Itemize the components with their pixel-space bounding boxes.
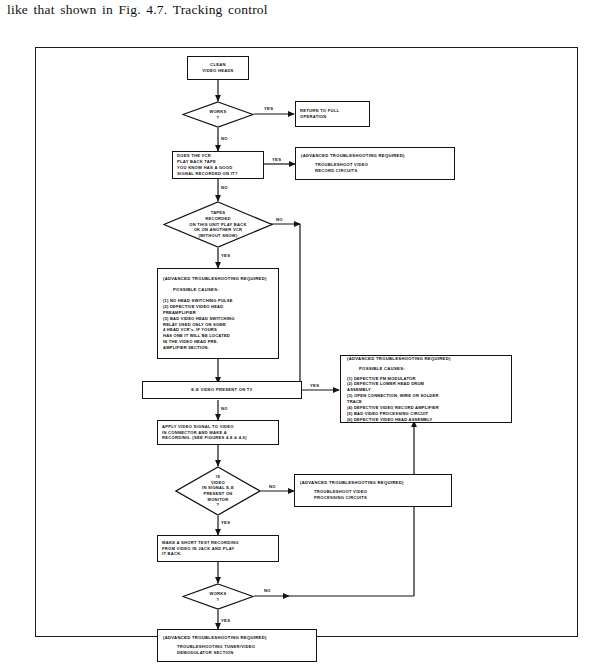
node-troubleshoot-video-processing-circuits-body: TROUBLESHOOT VIDEO PROCESSING CIRCUITS <box>314 489 367 501</box>
node-advanced-head-switching-causes-header: (ADVANCED TROUBLESHOOTING REQUIRED) <box>163 276 267 281</box>
node-ee-video-present-on-tv[interactable]: E-E VIDEO PRESENT ON TV <box>142 381 302 399</box>
node-troubleshoot-tuner-video-demodulator[interactable]: (ADVANCED TROUBLESHOOTING REQUIRED) TROU… <box>157 629 317 662</box>
edge-label-playback-yes: YES <box>272 157 281 162</box>
node-apply-video-signal-label: APPLY VIDEO SIGNAL TO VIDEO IN CONNECTOR… <box>162 424 247 441</box>
node-works-2-label: WORKS ? <box>210 591 227 602</box>
node-troubleshoot-video-processing-circuits[interactable]: (ADVANCED TROUBLESHOOTING REQUIRED) TROU… <box>294 474 452 507</box>
node-works-2[interactable]: WORKS ? <box>182 583 254 610</box>
edge-label-ee-no: NO <box>221 406 228 411</box>
figure-frame: CLEAN VIDEO HEADS WORKS ? YES NO RETURN … <box>35 47 578 637</box>
node-is-video-in-signal-present-label: IS VIDEO IN SIGNAL E-E PRESENT ON MONITO… <box>202 474 234 508</box>
node-troubleshoot-video-record-circuits-header: (ADVANCED TROUBLESHOOTING REQUIRED) <box>301 153 405 158</box>
node-clean-video-heads-label: CLEAN VIDEO HEADS <box>188 62 248 74</box>
node-advanced-head-switching-causes-list: (1) NO HEAD SWITCHING PULSE (2) DEFECTIV… <box>163 298 235 351</box>
edge-label-videoin-no: NO <box>269 484 276 489</box>
node-does-vcr-play-back-tape[interactable]: DOES THE VCR PLAY BACK TAPE YOU KNOW HAS… <box>172 151 264 179</box>
node-advanced-head-switching-causes-subheader: POSSIBLE CAUSES: <box>173 287 219 292</box>
node-tapes-play-back-ok-another-vcr-label: TAPES RECORDED ON THIS UNIT PLAY BACK OK… <box>189 210 246 239</box>
node-works-1[interactable]: WORKS ? <box>182 101 254 128</box>
node-works-1-label: WORKS ? <box>210 109 227 120</box>
edge-label-tapes-yes: YES <box>221 253 230 258</box>
node-tapes-play-back-ok-another-vcr[interactable]: TAPES RECORDED ON THIS UNIT PLAY BACK OK… <box>163 201 273 248</box>
node-troubleshoot-tuner-video-demodulator-header: (ADVANCED TROUBLESHOOTING REQUIRED) <box>163 635 267 640</box>
page-body-text: like that shown in Fig. 4.7. Tracking co… <box>7 2 407 18</box>
node-troubleshoot-video-processing-circuits-header: (ADVANCED TROUBLESHOOTING REQUIRED) <box>300 480 404 485</box>
node-is-video-in-signal-present[interactable]: IS VIDEO IN SIGNAL E-E PRESENT ON MONITO… <box>175 466 261 516</box>
edge-label-works2-yes: YES <box>221 618 230 623</box>
edge-label-playback-no: NO <box>221 185 228 190</box>
node-advanced-fm-modulator-causes-header: (ADVANCED TROUBLESHOOTING REQUIRED) <box>347 356 451 361</box>
node-does-vcr-play-back-tape-label: DOES THE VCR PLAY BACK TAPE YOU KNOW HAS… <box>177 153 238 176</box>
node-apply-video-signal[interactable]: APPLY VIDEO SIGNAL TO VIDEO IN CONNECTOR… <box>157 420 279 445</box>
edge-label-works1-no: NO <box>221 136 228 141</box>
node-advanced-fm-modulator-causes[interactable]: (ADVANCED TROUBLESHOOTING REQUIRED) POSS… <box>340 355 512 423</box>
node-troubleshoot-tuner-video-demodulator-body: TROUBLESHOOTING TUNER/VIDEO DEMODULATOR … <box>177 644 255 656</box>
edge-label-ee-yes: YES <box>310 383 319 388</box>
node-make-short-test-recording[interactable]: MAKE A SHORT TEST RECORDING FROM VIDEO I… <box>157 535 279 562</box>
node-advanced-fm-modulator-causes-list: (1) DEFECTIVE FM MODULATOR (2) DEFECTIVE… <box>347 376 439 423</box>
node-advanced-fm-modulator-causes-subheader: POSSIBLE CAUSES: <box>359 366 405 371</box>
node-troubleshoot-video-record-circuits[interactable]: (ADVANCED TROUBLESHOOTING REQUIRED) TROU… <box>295 147 455 180</box>
node-clean-video-heads[interactable]: CLEAN VIDEO HEADS <box>187 56 249 80</box>
flowchart-connectors <box>36 48 579 638</box>
edge-label-videoin-yes: YES <box>221 520 230 525</box>
edge-label-tapes-no: NO <box>276 217 283 222</box>
node-return-to-full-operation[interactable]: RETURN TO FULL OPERATION <box>295 101 370 127</box>
node-troubleshoot-video-record-circuits-body: TROUBLESHOOT VIDEO RECORD CIRCUITS <box>315 162 368 174</box>
edge-label-works2-no: NO <box>264 588 271 593</box>
node-ee-video-present-on-tv-label: E-E VIDEO PRESENT ON TV <box>143 387 301 393</box>
node-advanced-head-switching-causes[interactable]: (ADVANCED TROUBLESHOOTING REQUIRED) POSS… <box>157 268 279 359</box>
node-make-short-test-recording-label: MAKE A SHORT TEST RECORDING FROM VIDEO I… <box>162 540 239 557</box>
node-return-to-full-operation-label: RETURN TO FULL OPERATION <box>300 108 339 120</box>
edge-label-works1-yes: YES <box>264 106 273 111</box>
